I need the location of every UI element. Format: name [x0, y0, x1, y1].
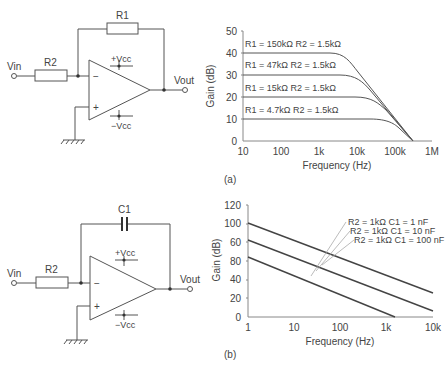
svg-text:1: 1	[245, 322, 251, 333]
svg-text:R1 = 47kΩ R2 = 1.5kΩ: R1 = 47kΩ R2 = 1.5kΩ	[245, 60, 336, 70]
resistor-r2-icon	[36, 277, 68, 288]
r1-label: R1	[116, 10, 129, 21]
resistor-r1-icon	[107, 23, 138, 34]
vcc-pos-label: +Vcc	[111, 54, 132, 64]
inverting-input-label: −	[94, 278, 100, 289]
svg-text:10k: 10k	[349, 146, 366, 157]
chart-b: 120 100 60 80 40 20 0 110100 1k10k Frequ…	[211, 200, 445, 347]
vcc-neg-label: −Vcc	[111, 121, 132, 131]
svg-text:R1 = 15kΩ R2 = 1.5kΩ: R1 = 15kΩ R2 = 1.5kΩ	[245, 83, 336, 93]
chart-a-legend: R1 = 150kΩ R2 = 1.5kΩ R1 = 47kΩ R2 = 1.5…	[245, 39, 341, 115]
svg-text:R2 = 1kΩ C1 = 100 nF: R2 = 1kΩ C1 = 100 nF	[354, 235, 445, 245]
svg-text:30: 30	[226, 70, 238, 81]
caption-a: (a)	[224, 174, 236, 185]
vin-terminal-icon	[12, 74, 17, 79]
svg-text:100k: 100k	[384, 146, 407, 157]
c1-label: C1	[118, 204, 131, 215]
vin-label: Vin	[7, 268, 21, 279]
chart-b-ylabel: Gain (dB)	[211, 239, 222, 282]
inverting-input-label: −	[93, 71, 99, 82]
chart-a: 504030 20100 101001k 10k100k1M Frequency…	[205, 26, 439, 171]
svg-text:60: 60	[230, 237, 242, 248]
vin-label: Vin	[7, 61, 21, 72]
chart-b-yticks: 120 100 60 80 40 20 0	[224, 200, 241, 323]
chart-a-ylabel: Gain (dB)	[205, 65, 216, 108]
svg-text:1k: 1k	[314, 146, 326, 157]
chart-b-legend: R2 = 1kΩ C1 = 1 nF R2 = 1kΩ C1 = 10 nF R…	[348, 217, 445, 245]
vout-label: Vout	[180, 274, 200, 285]
svg-text:R1 = 4.7kΩ R2 = 1.5kΩ: R1 = 4.7kΩ R2 = 1.5kΩ	[245, 105, 339, 115]
r2-label: R2	[45, 264, 58, 275]
noninverting-input-label: +	[94, 301, 100, 312]
svg-text:120: 120	[224, 200, 241, 211]
svg-text:10: 10	[237, 146, 249, 157]
vcc-pos-label: +Vcc	[115, 248, 136, 258]
svg-text:1k: 1k	[381, 322, 393, 333]
vout-terminal-icon	[183, 88, 188, 93]
svg-text:10: 10	[226, 114, 238, 125]
svg-text:R1 = 150kΩ R2 = 1.5kΩ: R1 = 150kΩ R2 = 1.5kΩ	[245, 39, 341, 49]
svg-text:100: 100	[273, 146, 290, 157]
svg-text:100: 100	[332, 322, 349, 333]
noninverting-input-label: +	[93, 102, 99, 113]
chart-a-xlabel: Frequency (Hz)	[303, 160, 372, 171]
svg-text:20: 20	[230, 293, 242, 304]
caption-b: (b)	[224, 349, 236, 360]
svg-text:10k: 10k	[425, 322, 442, 333]
resistor-r2-icon	[35, 70, 67, 81]
chart-b-xticks: 110100 1k10k	[245, 322, 442, 333]
vout-label: Vout	[174, 75, 194, 86]
svg-text:1M: 1M	[425, 146, 439, 157]
integrator-circuit	[12, 224, 193, 344]
capacitor-c1-icon	[122, 217, 127, 231]
svg-text:100: 100	[224, 218, 241, 229]
chart-a-xticks: 101001k 10k100k1M	[237, 146, 439, 157]
svg-text:50: 50	[226, 26, 238, 37]
svg-text:80: 80	[230, 256, 242, 267]
figure: Vin R2 R1 Vout +Vcc −Vcc − + 504030 2010…	[0, 0, 448, 374]
svg-text:20: 20	[226, 92, 238, 103]
svg-text:0: 0	[235, 312, 241, 323]
opamp-icon	[90, 256, 156, 320]
vcc-neg-label: −Vcc	[115, 320, 136, 330]
chart-b-xlabel: Frequency (Hz)	[306, 336, 375, 347]
inverting-amplifier-circuit	[12, 23, 188, 144]
svg-text:10: 10	[288, 322, 300, 333]
svg-text:40: 40	[226, 48, 238, 59]
r2-label: R2	[44, 57, 57, 68]
chart-a-yticks: 504030 20100	[226, 26, 238, 147]
svg-text:40: 40	[230, 274, 242, 285]
